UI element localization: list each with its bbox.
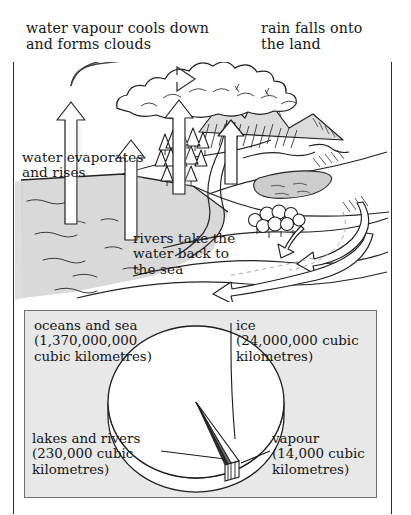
pie-label-ice: ice (24,000,000 cubic kilometres) <box>236 318 359 364</box>
water-cycle-figure: water vapour cools down and forms clouds… <box>0 0 411 515</box>
caption-evaporates: water evaporates and rises <box>22 150 143 181</box>
pie-label-vapour: vapour (14,000 cubic kilometres) <box>272 431 365 477</box>
pie-label-lakes: lakes and rivers (230,000 cubic kilometr… <box>32 431 140 477</box>
lake <box>254 171 332 198</box>
caption-rain: rain falls onto the land <box>261 20 362 52</box>
pie-label-oceans: oceans and sea (1,370,000,000 cubic kilo… <box>34 318 152 364</box>
caption-rivers: rivers take the water back to the sea <box>133 231 235 277</box>
cloud-bank <box>117 62 297 118</box>
caption-clouds: water vapour cools down and forms clouds <box>26 20 209 52</box>
pie-depth-block <box>225 461 239 481</box>
